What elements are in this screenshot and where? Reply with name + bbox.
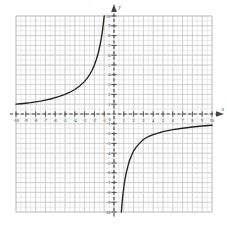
graph-figure: -10-9-8-7-6-5-4-3-2-112345678910-10-9-8-… [0, 0, 227, 228]
x-tick-label: -10 [13, 118, 20, 123]
y-tick-label: -1 [107, 121, 111, 126]
y-tick-label: -2 [107, 131, 111, 136]
coordinate-plane-svg: -10-9-8-7-6-5-4-3-2-112345678910-10-9-8-… [0, 0, 227, 228]
y-tick-label: -10 [105, 210, 112, 215]
x-tick-label: -2 [93, 118, 97, 123]
x-tick-label: 1 [123, 118, 125, 123]
y-tick-label: 2 [108, 92, 110, 97]
x-tick-label: -1 [102, 118, 106, 123]
top-artifact-glyph: ' [88, 4, 89, 9]
x-tick-label: 2 [132, 118, 134, 123]
y-tick-label: 1 [108, 102, 110, 107]
